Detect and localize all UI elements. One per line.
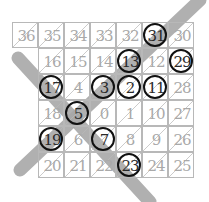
grid-cell-34: 34 [64, 22, 90, 48]
grid-cell-9: 9 [142, 126, 168, 152]
prime-circle-icon [143, 75, 167, 99]
grid-cell-19: 19 [38, 126, 64, 152]
grid-cell-31: 31 [142, 22, 168, 48]
grid-cell-3: 3 [90, 74, 116, 100]
prime-circle-icon [117, 75, 141, 99]
grid-cell-35: 35 [38, 22, 64, 48]
grid-cell-32: 32 [116, 22, 142, 48]
grid-cell-1: 1 [116, 100, 142, 126]
grid-cell-20: 20 [38, 152, 64, 178]
prime-circle-icon [39, 127, 63, 151]
grid-cell-6: 6 [64, 126, 90, 152]
prime-circle-icon [169, 49, 193, 73]
grid-cell-15: 15 [64, 48, 90, 74]
cell-number: 4 [65, 75, 91, 101]
grid-cell-0: 0 [90, 100, 116, 126]
ulam-spiral-diagram: 3635343332313016151413122917432112818501… [0, 0, 209, 202]
grid-cell-13: 13 [116, 48, 142, 74]
cell-number: 16 [39, 49, 65, 75]
cell-number: 35 [39, 23, 65, 49]
cell-number: 20 [39, 153, 65, 179]
cell-number: 34 [65, 23, 91, 49]
grid-cell-23: 23 [116, 152, 142, 178]
cell-number: 30 [169, 23, 195, 49]
cell-number: 14 [91, 49, 117, 75]
cell-number: 15 [65, 49, 91, 75]
grid-cell-22: 22 [90, 152, 116, 178]
grid-cell-33: 33 [90, 22, 116, 48]
cell-number: 9 [143, 127, 169, 153]
grid-cell-8: 8 [116, 126, 142, 152]
prime-circle-icon [143, 23, 167, 47]
grid-cell-10: 10 [142, 100, 168, 126]
grid-cell-26: 26 [168, 126, 194, 152]
prime-circle-icon [117, 153, 141, 177]
prime-circle-icon [117, 49, 141, 73]
prime-circle-icon [91, 75, 115, 99]
grid-cell-21: 21 [64, 152, 90, 178]
cell-number: 25 [169, 153, 195, 179]
prime-circle-icon [39, 75, 63, 99]
cell-number: 26 [169, 127, 195, 153]
cell-number: 24 [143, 153, 169, 179]
cell-number: 18 [39, 101, 65, 127]
prime-circle-icon [65, 101, 89, 125]
grid-cell-25: 25 [168, 152, 194, 178]
grid-cell-14: 14 [90, 48, 116, 74]
cell-number: 28 [169, 75, 195, 101]
cell-number: 8 [117, 127, 143, 153]
cell-number: 33 [91, 23, 117, 49]
grid-cell-16: 16 [38, 48, 64, 74]
cell-number: 36 [13, 23, 39, 49]
grid-cell-27: 27 [168, 100, 194, 126]
cell-number: 21 [65, 153, 91, 179]
grid-cell-5: 5 [64, 100, 90, 126]
grid-cell-7: 7 [90, 126, 116, 152]
grid-cell-29: 29 [168, 48, 194, 74]
cell-number: 1 [117, 101, 143, 127]
grid-cell-17: 17 [38, 74, 64, 100]
grid-cell-28: 28 [168, 74, 194, 100]
grid-cell-24: 24 [142, 152, 168, 178]
prime-circle-icon [91, 127, 115, 151]
cell-number: 10 [143, 101, 169, 127]
grid-cell-2: 2 [116, 74, 142, 100]
grid-cell-11: 11 [142, 74, 168, 100]
cell-number: 22 [91, 153, 117, 179]
cell-number: 0 [91, 101, 117, 127]
cell-number: 6 [65, 127, 91, 153]
grid-cell-4: 4 [64, 74, 90, 100]
cell-number: 12 [143, 49, 169, 75]
cell-number: 32 [117, 23, 143, 49]
grid-cell-36: 36 [12, 22, 38, 48]
grid-cell-12: 12 [142, 48, 168, 74]
cell-number: 27 [169, 101, 195, 127]
grid-cell-30: 30 [168, 22, 194, 48]
grid-cell-18: 18 [38, 100, 64, 126]
